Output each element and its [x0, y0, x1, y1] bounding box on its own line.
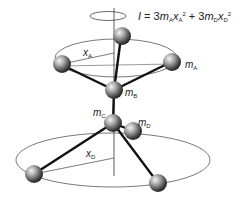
label-mD: mD: [138, 117, 151, 129]
lower-ring: [16, 133, 210, 187]
formula: I = 3mAxA2 + 3mDxD2: [138, 10, 232, 23]
label-mA: mA: [185, 59, 197, 71]
rotation-indicator: [90, 12, 126, 21]
sphere-top-A: [113, 27, 131, 45]
sphere-B: [105, 81, 123, 99]
label-xD: xD: [85, 148, 96, 160]
moment-of-inertia-diagram: I = 3mAxA2 + 3mDxD2 xA mA mB mC mD xD: [0, 0, 242, 202]
sphere-C: [104, 114, 122, 132]
label-mC: mC: [93, 107, 106, 119]
sphere-right-D: [149, 174, 167, 192]
label-mB: mB: [125, 87, 137, 99]
label-xA: xA: [82, 47, 92, 59]
sphere-right-A: [163, 53, 181, 71]
bond-right-A: [114, 62, 171, 90]
sphere-left-D: [25, 165, 43, 183]
sphere-left-A: [53, 55, 71, 73]
